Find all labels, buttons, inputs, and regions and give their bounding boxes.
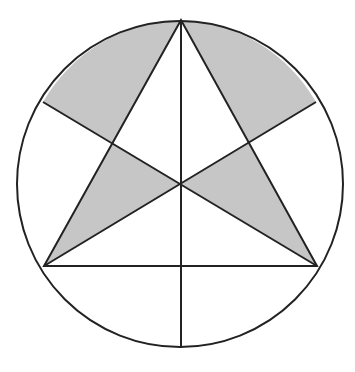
- shaded-region-upper-left: [43, 20, 181, 143]
- geometry-figure: [0, 0, 355, 372]
- shaded-region-lower-left: [44, 143, 181, 266]
- shaded-region-lower-right: [181, 143, 317, 266]
- shaded-region-upper-right: [181, 20, 316, 143]
- figure-canvas: [0, 0, 355, 372]
